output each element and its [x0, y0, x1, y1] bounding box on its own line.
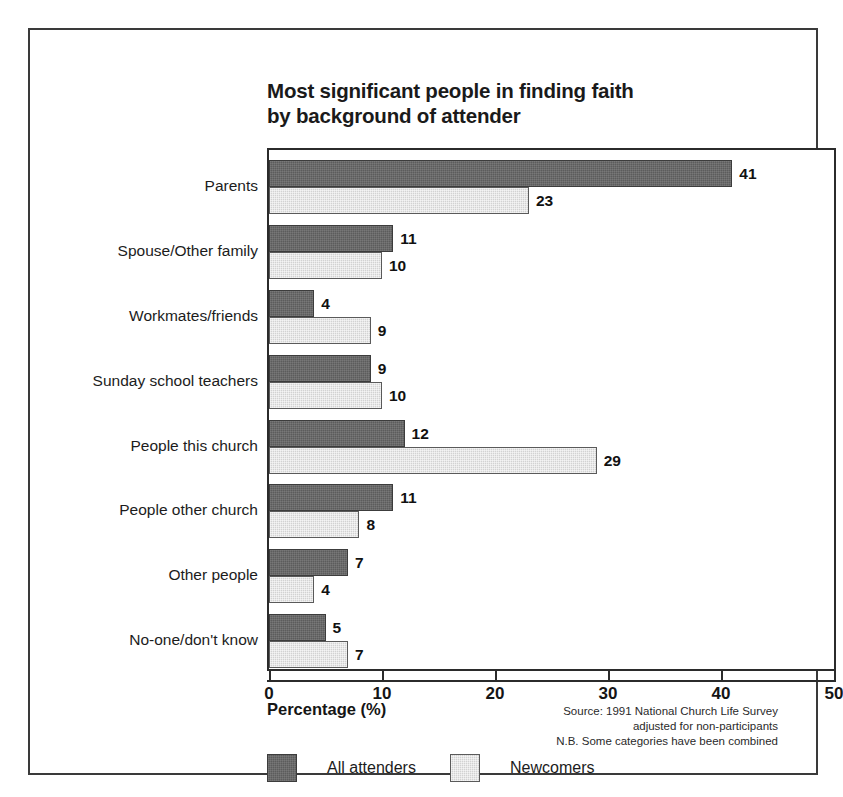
bar-value-label: 23: [536, 187, 553, 214]
bar-value-label: 11: [400, 225, 416, 252]
plot-area: 412311104991012291187457: [267, 148, 836, 671]
bar-group: 4123: [269, 160, 834, 214]
x-axis-tick-label: 50: [825, 684, 843, 704]
chart-title-line-2: by background of attender: [267, 103, 827, 128]
legend-swatch-icon: [267, 754, 297, 782]
bar: [269, 576, 314, 603]
bar: [269, 641, 348, 668]
bar-value-label: 11: [400, 484, 416, 511]
bar: [269, 290, 314, 317]
bar-value-label: 4: [321, 576, 330, 603]
y-axis-label-4: Sunday school teachers: [48, 372, 258, 390]
x-axis-tick-label: 40: [712, 684, 731, 704]
bar-value-label: 7: [355, 549, 364, 576]
legend-label: Newcomers: [510, 759, 594, 777]
source-note-line-3: N.B. Some categories have been combined: [478, 734, 778, 749]
source-note: Source: 1991 National Church Life Survey…: [478, 704, 778, 749]
bar: [269, 447, 597, 474]
x-axis-title: Percentage (%): [267, 700, 386, 719]
bar: [269, 511, 359, 538]
bar-value-label: 7: [355, 641, 364, 668]
source-note-line-2: adjusted for non-participants: [478, 719, 778, 734]
bar: [269, 187, 529, 214]
x-axis-tick: [721, 671, 723, 682]
bar: [269, 420, 405, 447]
bar-group: 910: [269, 355, 834, 409]
bar: [269, 614, 326, 641]
bar-value-label: 29: [604, 447, 621, 474]
x-axis-tick: [495, 671, 497, 682]
bar-value-label: 10: [389, 382, 406, 409]
bar-value-label: 5: [333, 614, 342, 641]
bar-group: 1229: [269, 420, 834, 474]
bar: [269, 355, 371, 382]
figure-frame: Most significant people in finding faith…: [28, 28, 818, 775]
bar-value-label: 41: [739, 160, 756, 187]
legend-label: All attenders: [327, 759, 416, 777]
y-axis-label-5: People this church: [48, 437, 258, 455]
bar: [269, 225, 393, 252]
x-axis-tick: [608, 671, 610, 682]
bar: [269, 160, 732, 187]
y-axis-label-1: Parents: [48, 177, 258, 195]
legend-item-2[interactable]: Newcomers: [450, 751, 594, 785]
y-axis-label-6: People other church: [48, 501, 258, 519]
legend-swatch-icon: [450, 754, 480, 782]
bars-container: 412311104991012291187457: [269, 150, 834, 669]
bar-group: 1110: [269, 225, 834, 279]
x-axis-tick-label: 20: [486, 684, 505, 704]
x-axis-tick-label: 30: [599, 684, 618, 704]
bar: [269, 252, 382, 279]
legend-item-1[interactable]: All attenders: [267, 751, 416, 785]
x-axis-tick: [269, 671, 271, 682]
bar-value-label: 4: [321, 290, 330, 317]
y-axis-label-3: Workmates/friends: [48, 307, 258, 325]
bar: [269, 317, 371, 344]
bar-group: 49: [269, 290, 834, 344]
bar-group: 118: [269, 484, 834, 538]
x-axis-tick: [382, 671, 384, 682]
bar-value-label: 9: [378, 355, 387, 382]
bar-value-label: 12: [412, 420, 429, 447]
y-axis-category-labels: ParentsSpouse/Other familyWorkmates/frie…: [40, 148, 258, 671]
bar-group: 74: [269, 549, 834, 603]
chart-title-line-1: Most significant people in finding faith: [267, 78, 827, 103]
y-axis-label-2: Spouse/Other family: [48, 242, 258, 260]
page-title: Most significant people in finding faith…: [267, 78, 827, 128]
source-note-line-1: Source: 1991 National Church Life Survey: [478, 704, 778, 719]
bar: [269, 382, 382, 409]
bar: [269, 484, 393, 511]
bar: [269, 549, 348, 576]
bar-value-label: 8: [366, 511, 375, 538]
bar-value-label: 9: [378, 317, 387, 344]
y-axis-label-7: Other people: [48, 566, 258, 584]
x-axis-tick: [834, 671, 836, 682]
y-axis-label-8: No-one/don't know: [48, 631, 258, 649]
bar-value-label: 10: [389, 252, 406, 279]
bar-group: 57: [269, 614, 834, 668]
x-axis-line: [267, 680, 836, 682]
